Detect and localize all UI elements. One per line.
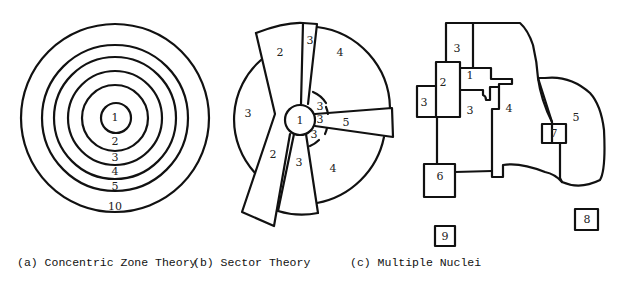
sector-label: 3 xyxy=(317,113,324,126)
zone-label: 10 xyxy=(108,200,122,213)
concentric-zone-diagram: 1 2 3 4 5 10 xyxy=(21,24,209,213)
caption-sector: (b) Sector Theory xyxy=(193,256,310,269)
sector-label: 4 xyxy=(337,46,344,59)
nuclei-divider-lower xyxy=(560,143,562,182)
zone-label: 4 xyxy=(112,165,119,178)
nuclei-label: 1 xyxy=(467,69,474,82)
sector-label: 2 xyxy=(270,148,277,161)
nuclei-label: 4 xyxy=(506,102,513,115)
sector-label: 3 xyxy=(245,107,252,120)
nuclei-label: 3 xyxy=(454,42,461,55)
nuclei-label: 6 xyxy=(437,170,444,183)
nuclei-zone-1 xyxy=(460,87,499,100)
sector-arc-top-right xyxy=(317,27,390,108)
multiple-nuclei-diagram: 1 2 3 3 3 4 5 6 7 8 9 xyxy=(417,23,605,246)
sector-label: 1 xyxy=(297,114,304,127)
nuclei-label: 2 xyxy=(440,76,447,89)
caption-concentric: (a) Concentric Zone Theory xyxy=(17,256,196,269)
sector-label: 4 xyxy=(330,162,337,175)
sector-theory-diagram: 1 2 3 4 3 2 3 4 5 3 3 3 xyxy=(234,23,393,226)
sector-label: 3 xyxy=(311,128,318,141)
nuclei-label: 7 xyxy=(551,127,558,140)
nuclei-label: 3 xyxy=(467,104,474,117)
nuclei-connector-6-right xyxy=(455,171,492,172)
zone-label: 5 xyxy=(112,180,119,193)
zone-label: 3 xyxy=(112,151,119,164)
nuclei-zone-2 xyxy=(436,62,460,117)
sector-label: 3 xyxy=(296,156,303,169)
zone-label: 1 xyxy=(112,111,119,124)
sector-label: 2 xyxy=(277,46,284,59)
nuclei-label: 9 xyxy=(442,230,449,243)
sector-label: 5 xyxy=(343,116,350,129)
urban-models-figure: 1 2 3 4 5 10 1 2 3 4 3 2 3 4 5 3 3 xyxy=(0,0,619,288)
caption-nuclei: (c) Multiple Nuclei xyxy=(350,256,481,269)
nuclei-label: 5 xyxy=(573,111,580,124)
nuclei-label: 8 xyxy=(584,213,591,226)
nuclei-label: 3 xyxy=(421,96,428,109)
sector-label: 3 xyxy=(317,100,324,113)
sector-wedge-2 xyxy=(242,33,290,226)
nuclei-boundary-right xyxy=(460,68,605,186)
sector-label: 3 xyxy=(307,34,314,47)
zone-label: 2 xyxy=(112,135,119,148)
sector-arc-bottom-right xyxy=(317,137,384,203)
sector-arc-bottom xyxy=(278,211,318,215)
